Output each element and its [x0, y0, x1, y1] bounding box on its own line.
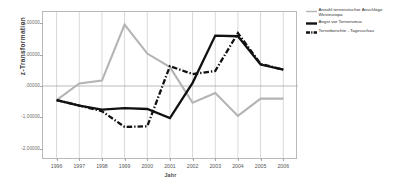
x-tick-mark [283, 158, 284, 161]
legend-label-line-1: Terrorberichte - Tagesschau [319, 28, 374, 33]
x-tick-mark [215, 158, 216, 161]
x-tick-mark [57, 158, 58, 161]
y-tick-label: -1,00000 [21, 113, 40, 121]
x-tick-mark [193, 158, 194, 161]
legend-label-line-2: Westeuropa [319, 12, 405, 17]
legend-item-label: Angst vor Terrorismus [319, 19, 405, 24]
legend-item-label: Terrorberichte - Tagesschau [319, 28, 405, 33]
y-tick-label: 1,00000 [23, 51, 40, 59]
x-tick-mark [79, 158, 80, 161]
y-tick-mark [40, 23, 43, 24]
y-tick-label: 2,00000 [23, 19, 40, 27]
legend-line-swatch-icon [306, 29, 317, 36]
x-axis-title: Jahr [43, 172, 298, 178]
x-tick-mark [147, 158, 148, 161]
legend-line-swatch-icon [306, 20, 317, 27]
x-tick-label: 2006 [268, 162, 298, 171]
x-tick-mark [238, 158, 239, 161]
legend: Anzahl terroristischer AnschlägeWesteuro… [306, 7, 405, 38]
plot-area: 2,000001,00000,00000-1,00000-2,00000 199… [42, 11, 297, 159]
y-tick-mark [40, 117, 43, 118]
x-tick-mark [261, 158, 262, 161]
legend-item-label: Anzahl terroristischer AnschlägeWesteuro… [319, 7, 405, 17]
y-tick-mark [40, 86, 43, 87]
x-tick-mark [102, 158, 103, 161]
legend-item[interactable]: Terrorberichte - Tagesschau [306, 28, 405, 36]
x-tick-mark [125, 158, 126, 161]
legend-label-line-1: Angst vor Terrorismus [319, 19, 362, 24]
y-tick-label: ,00000 [25, 82, 40, 90]
y-tick-mark [40, 55, 43, 56]
data-line-series-2 [57, 36, 284, 119]
x-tick-mark [170, 158, 171, 161]
data-line-series-1 [57, 25, 284, 116]
data-line-series-3 [57, 33, 284, 127]
legend-item[interactable]: Anzahl terroristischer AnschlägeWesteuro… [306, 7, 405, 17]
y-tick-label: -2,00000 [21, 145, 40, 153]
data-series-layer [43, 12, 298, 160]
legend-item[interactable]: Angst vor Terrorismus [306, 19, 405, 27]
y-tick-mark [40, 149, 43, 150]
chart-figure: z-Transformation 2,000001,00000,00000-1,… [0, 0, 405, 188]
legend-line-swatch-icon [306, 8, 317, 15]
